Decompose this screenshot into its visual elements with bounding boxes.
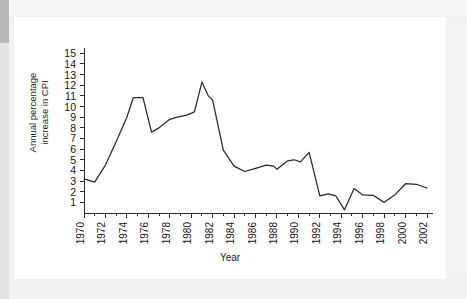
top-margin-band	[9, 0, 467, 16]
x-tick-label: 1984	[225, 222, 236, 245]
y-axis-tick-marks	[80, 53, 84, 202]
x-tick-label: 1982	[204, 222, 215, 245]
x-tick-label: 1970	[75, 222, 86, 245]
x-axis-tick-labels: 1970197219741976197819801982198419861988…	[75, 222, 429, 245]
bottom-margin-band	[9, 279, 467, 299]
y-tick-label: 14	[64, 58, 76, 70]
y-axis-tick-labels: 123456789101112131415	[64, 47, 76, 208]
y-tick-label: 13	[64, 69, 76, 81]
x-tick-label: 1990	[289, 222, 300, 245]
line-chart: Annual percentage increase in CPI 123456…	[14, 17, 446, 279]
y-tick-label: 7	[70, 132, 76, 144]
x-tick-label: 2000	[397, 222, 408, 245]
x-tick-label: 1996	[354, 222, 365, 245]
y-tick-label: 9	[70, 111, 76, 123]
y-tick-label: 1	[70, 196, 76, 208]
y-tick-label: 3	[70, 175, 76, 187]
x-tick-label: 1986	[247, 222, 258, 245]
x-tick-label: 1980	[182, 222, 193, 245]
left-edge-bar-light	[0, 43, 9, 299]
y-tick-label: 2	[70, 186, 76, 198]
x-tick-label: 1978	[161, 222, 172, 245]
x-tick-label: 1972	[96, 222, 107, 245]
chart-canvas: 123456789101112131415 197019721974197619…	[14, 17, 446, 279]
y-tick-label: 4	[70, 164, 76, 176]
right-margin-band	[446, 17, 467, 279]
y-tick-label: 15	[64, 47, 76, 59]
x-tick-label: 2002	[418, 222, 429, 245]
x-tick-label: 1976	[139, 222, 150, 245]
y-tick-label: 12	[64, 79, 76, 91]
y-tick-label: 6	[70, 143, 76, 155]
x-tick-label: 1974	[118, 222, 129, 245]
y-tick-label: 5	[70, 154, 76, 166]
y-tick-label: 11	[65, 90, 76, 102]
data-series-line	[84, 82, 427, 210]
x-tick-label: 1994	[332, 222, 343, 245]
y-tick-label: 8	[70, 122, 76, 134]
figure-panel: Annual percentage increase in CPI 123456…	[14, 17, 446, 279]
x-tick-label: 1988	[268, 222, 279, 245]
x-axis-tick-marks	[84, 213, 427, 218]
x-tick-label: 1998	[375, 222, 386, 245]
x-tick-label: 1992	[311, 222, 322, 245]
x-axis-title: Year	[14, 252, 446, 263]
left-edge-bar-dark	[0, 0, 9, 43]
page-background: Annual percentage increase in CPI 123456…	[0, 0, 467, 299]
y-tick-label: 10	[64, 101, 76, 113]
